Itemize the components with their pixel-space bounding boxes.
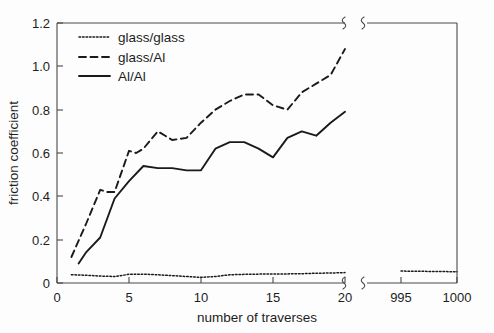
chart-figure: 0 0.2 0.4 0.6 0.8 1.0 1.2 0 5 10 15 20 9… [0,0,494,333]
y-tick-label-0.8: 0.8 [32,103,50,118]
legend-item-al-al: Al/Al [79,69,146,84]
legend-label-al-al: Al/Al [118,69,146,84]
legend-label-glass-al: glass/Al [118,50,165,65]
axis-break-bottom-right-mark [361,277,365,289]
y-tick-label-0.2: 0.2 [32,233,50,248]
y-axis-title: friction coefficient [6,101,21,205]
series-al-al-path [79,112,345,264]
y-tick-label-0.4: 0.4 [32,189,50,204]
x-tick-label-10: 10 [194,290,208,305]
x-axis-title: number of traverses [197,310,317,325]
chart-canvas: 0 0.2 0.4 0.6 0.8 1.0 1.2 0 5 10 15 20 9… [0,0,494,333]
x-tick-label-995: 995 [390,290,412,305]
y-tick-label-0: 0 [43,276,50,291]
x-tick-label-5: 5 [125,290,132,305]
axis-break-marks [342,17,365,289]
series-glass-glass-path-right [401,271,457,272]
x-tick-label-20: 20 [338,290,352,305]
x-tick-label-15: 15 [266,290,280,305]
y-tick-label-1.0: 1.0 [32,59,50,74]
series-glass-al-path [71,49,345,257]
plot-frame [57,23,457,283]
legend-item-glass-glass: glass/glass [79,30,185,45]
legend-item-glass-al: glass/Al [79,50,165,65]
x-axis-tick-labels: 0 5 10 15 20 995 1000 [53,290,471,305]
legend-label-glass-glass: glass/glass [118,30,185,45]
y-axis-ticks [57,23,63,283]
series-glass-glass-path-left [71,273,345,278]
y-tick-label-1.2: 1.2 [32,16,50,31]
axis-break-top-right-mark [361,17,365,29]
series-glass-glass [71,271,457,277]
y-axis-tick-labels: 0 0.2 0.4 0.6 0.8 1.0 1.2 [32,16,50,291]
x-tick-label-0: 0 [53,290,60,305]
x-axis-ticks [57,277,457,283]
chart-legend: glass/glass glass/Al Al/Al [79,30,185,84]
y-tick-label-0.6: 0.6 [32,146,50,161]
x-tick-label-1000: 1000 [443,290,472,305]
